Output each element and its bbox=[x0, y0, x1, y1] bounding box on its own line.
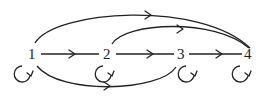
self-loop-1 bbox=[14, 66, 33, 82]
edge-2-3 bbox=[116, 50, 174, 58]
node-3-label: 3 bbox=[177, 46, 185, 62]
edge-2-4-arc bbox=[112, 25, 249, 48]
node-1-label: 1 bbox=[28, 46, 36, 62]
self-loop-4 bbox=[232, 66, 251, 82]
node-4-label: 4 bbox=[244, 46, 252, 62]
self-loop-3 bbox=[178, 66, 197, 82]
edge-1-3-arc bbox=[37, 66, 176, 90]
directed-graph-diagram: 1 2 3 4 bbox=[0, 0, 265, 103]
edge-1-2 bbox=[41, 50, 99, 58]
self-loop-2 bbox=[95, 66, 114, 82]
graph-canvas: 1 2 3 4 bbox=[0, 0, 265, 103]
edge-3-4 bbox=[189, 50, 242, 58]
node-2-label: 2 bbox=[103, 46, 111, 62]
